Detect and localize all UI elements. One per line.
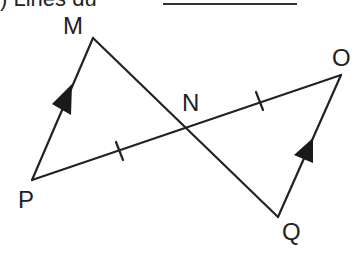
label-p: P [18,188,34,212]
label-q: Q [282,220,301,244]
label-o: O [332,46,351,70]
geometry-figure [0,0,359,256]
label-n: N [182,91,199,115]
diagram-canvas: ) Lines du M N O P Q [0,0,359,256]
label-m: M [63,14,83,38]
